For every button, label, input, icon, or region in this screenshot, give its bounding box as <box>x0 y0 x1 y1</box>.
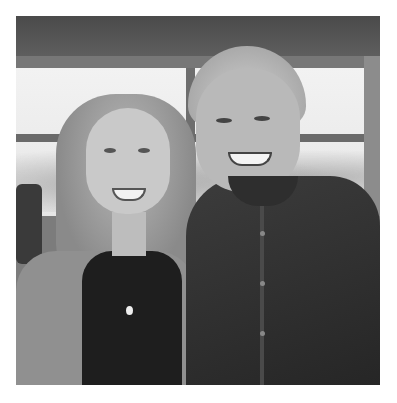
woman-eye-right <box>138 148 150 153</box>
shirt-button-icon <box>260 331 265 336</box>
woman-eye-left <box>104 148 116 153</box>
man-face <box>196 68 300 192</box>
man-eye-left <box>216 118 232 123</box>
shirt-button-icon <box>260 281 265 286</box>
shirt-button-icon <box>260 231 265 236</box>
woman-top <box>82 251 182 385</box>
pendant-icon <box>126 306 133 315</box>
man-eye-right <box>254 116 270 121</box>
ceiling <box>16 16 380 56</box>
photo <box>16 16 380 385</box>
background-person-partial <box>16 184 42 264</box>
ceiling-trim <box>16 56 380 68</box>
man-shirt <box>186 176 380 385</box>
woman-neck <box>112 212 146 256</box>
